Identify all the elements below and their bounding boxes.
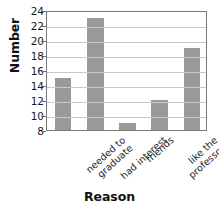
gridline: [47, 42, 206, 43]
bars-layer: [47, 12, 206, 130]
y-tick-mark: [41, 131, 46, 132]
bar: [119, 123, 136, 131]
bar-chart: Number 81012141618202224 needed togradua…: [0, 0, 219, 211]
y-tick-mark: [41, 116, 46, 117]
y-tick-mark: [41, 41, 46, 42]
y-tick-mark: [41, 86, 46, 87]
y-tick-mark: [41, 56, 46, 57]
y-tick-mark: [41, 101, 46, 102]
gridline: [47, 87, 206, 88]
gridline: [47, 117, 206, 118]
bar: [55, 78, 72, 131]
x-axis-title: Reason: [0, 189, 219, 204]
bar: [87, 18, 104, 131]
x-tick-label: like theprofessor: [180, 135, 219, 181]
bar: [151, 100, 168, 130]
gridline: [47, 27, 206, 28]
gridline: [47, 102, 206, 103]
y-tick-mark: [41, 11, 46, 12]
y-tick-mark: [41, 26, 46, 27]
plot-area: [46, 11, 207, 131]
gridline: [47, 57, 206, 58]
gridline: [47, 72, 206, 73]
y-tick-mark: [41, 71, 46, 72]
x-axis-tick-labels: needed tograduatehad interestfriendslike…: [0, 133, 219, 191]
